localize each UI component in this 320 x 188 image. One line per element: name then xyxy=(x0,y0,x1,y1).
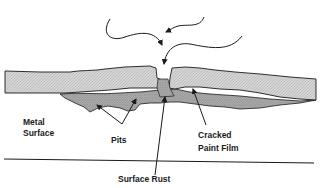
surface-rust-pointer-icon xyxy=(155,97,165,175)
label-pits: Pits xyxy=(111,135,127,145)
label-metal-surface-2: Surface xyxy=(23,128,54,138)
label-metal-surface-1: Metal xyxy=(23,117,45,127)
moisture-arrows xyxy=(106,17,242,64)
paint-film-left xyxy=(5,66,165,93)
label-paint-film: Paint Film xyxy=(198,143,239,153)
arrow-top-icon xyxy=(166,17,204,32)
label-cracked: Cracked xyxy=(198,130,232,140)
arrow-left-icon xyxy=(106,19,162,45)
corrosion-diagram: Metal Surface Pits Cracked Paint Film Su… xyxy=(0,0,320,188)
metal-surface-line xyxy=(4,159,314,163)
diagram-graphic xyxy=(0,0,320,188)
arrow-right-icon xyxy=(164,36,242,64)
label-surface-rust: Surface Rust xyxy=(118,174,170,184)
